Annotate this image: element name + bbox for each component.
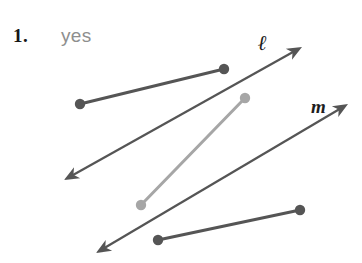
segment-upper-body [80, 69, 224, 104]
segment-transversal-endpoint-dot [240, 93, 250, 103]
segment-transversal-endpoint-dot [136, 200, 146, 210]
segment-upper [75, 64, 229, 109]
segment-lower [153, 205, 305, 245]
segment-upper-endpoint-dot [75, 99, 85, 109]
line-ell-shaft [71, 51, 295, 176]
segment-lower-endpoint-dot [153, 235, 163, 245]
geometry-canvas [0, 0, 362, 263]
segment-lower-body [158, 210, 300, 240]
geometry-figure: 1. yes ℓ m [0, 0, 362, 263]
line-m [96, 104, 348, 253]
segment-lower-endpoint-dot [295, 205, 305, 215]
segment-transversal [136, 93, 250, 210]
lines-group [64, 47, 348, 253]
segment-transversal-body [141, 98, 245, 205]
segment-upper-endpoint-dot [219, 64, 229, 74]
